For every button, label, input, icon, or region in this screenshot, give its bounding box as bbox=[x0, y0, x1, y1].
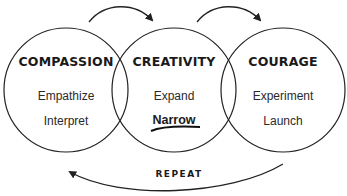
venn-diagram: COMPASSION Empathize Interpret CREATIVIT… bbox=[0, 0, 347, 196]
courage-title: COURAGE bbox=[248, 54, 317, 69]
curved-arrow-icon bbox=[89, 7, 152, 22]
compassion-item-interpret: Interpret bbox=[44, 114, 89, 128]
creativity-title: CREATIVITY bbox=[132, 54, 216, 69]
compassion-title: COMPASSION bbox=[18, 54, 113, 69]
courage-item-launch: Launch bbox=[263, 114, 302, 128]
narrow-underline bbox=[151, 127, 200, 131]
compassion-item-empathize: Empathize bbox=[38, 89, 95, 103]
creativity-item-narrow: Narrow bbox=[152, 113, 195, 127]
curved-arrow-icon bbox=[197, 7, 260, 22]
repeat-label: REPEAT bbox=[155, 169, 202, 179]
courage-item-experiment: Experiment bbox=[253, 89, 314, 103]
creativity-item-expand: Expand bbox=[154, 89, 195, 103]
